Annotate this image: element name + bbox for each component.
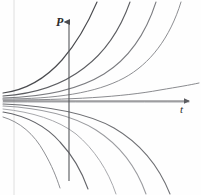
solution-curve	[3, 117, 60, 188]
solution-curve	[3, 109, 116, 194]
horizontal-axis-label: t	[180, 104, 183, 115]
plot-area	[0, 0, 201, 195]
solution-curve-layer	[3, 2, 199, 194]
solution-curve	[3, 2, 97, 93]
solution-curve	[3, 106, 146, 194]
solution-curve	[3, 2, 156, 98]
figure-canvas: P t	[0, 0, 201, 195]
vertical-axis-label: P	[56, 16, 63, 28]
solution-curve	[3, 104, 170, 194]
axis-layer	[3, 22, 189, 181]
solution-curve	[3, 112, 88, 189]
solution-curve	[3, 2, 130, 96]
